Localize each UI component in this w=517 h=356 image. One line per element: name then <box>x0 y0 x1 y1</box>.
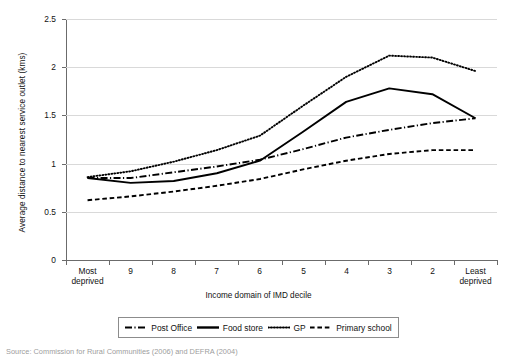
source-note: Source: Commission for Rural Communities… <box>6 347 238 356</box>
x-tick-label: 3 <box>368 266 411 276</box>
x-tick-mark <box>368 260 369 265</box>
y-tick-label: 1 <box>22 159 56 169</box>
x-tick-label: Mostdeprived <box>66 266 109 286</box>
x-axis-title: Income domain of IMD decile <box>0 291 517 300</box>
legend-item-primary-school[interactable]: Primary school <box>310 323 391 333</box>
x-tick-mark <box>109 260 110 265</box>
x-tick-label: 9 <box>109 266 152 276</box>
x-tick-mark <box>411 260 412 265</box>
x-tick-mark <box>66 260 67 265</box>
legend-swatch-icon <box>268 323 290 332</box>
x-tick-mark <box>238 260 239 265</box>
y-axis-title: Average distance to nearest service outl… <box>18 18 27 268</box>
plot-area <box>66 19 497 260</box>
y-tick-label: 2 <box>22 62 56 72</box>
legend-label: GP <box>294 323 306 333</box>
series-line-gp <box>88 56 476 177</box>
x-tick-mark <box>282 260 283 265</box>
x-tick-label: 6 <box>238 266 281 276</box>
chart-legend: Post OfficeFood storeGPPrimary school <box>118 317 399 338</box>
x-tick-mark <box>454 260 455 265</box>
chart-figure: Average distance to nearest service outl… <box>0 0 517 356</box>
legend-label: Food store <box>223 323 263 333</box>
y-tick-label: 0 <box>22 255 56 265</box>
legend-label: Post Office <box>151 323 192 333</box>
series-line-post-office <box>88 118 476 178</box>
legend-item-gp[interactable]: GP <box>268 323 306 333</box>
x-tick-mark <box>325 260 326 265</box>
x-tick-label: Leastdeprived <box>454 266 497 286</box>
x-tick-label: 5 <box>282 266 325 276</box>
y-tick-label: 2.5 <box>22 14 56 24</box>
legend-item-post-office[interactable]: Post Office <box>125 323 192 333</box>
x-tick-label: 4 <box>325 266 368 276</box>
x-tick-label: 7 <box>195 266 238 276</box>
legend-swatch-icon <box>125 323 147 332</box>
series-lines <box>66 19 497 260</box>
x-tick-mark <box>497 260 498 265</box>
legend-item-food-store[interactable]: Food store <box>197 323 263 333</box>
legend-swatch-icon <box>197 323 219 332</box>
y-tick-label: 1.5 <box>22 110 56 120</box>
series-line-food-store <box>88 88 476 182</box>
x-tick-mark <box>195 260 196 265</box>
legend-label: Primary school <box>336 323 391 333</box>
y-tick-label: 0.5 <box>22 207 56 217</box>
x-tick-label: 2 <box>411 266 454 276</box>
legend-swatch-icon <box>310 323 332 332</box>
x-tick-mark <box>152 260 153 265</box>
x-tick-label: 8 <box>152 266 195 276</box>
